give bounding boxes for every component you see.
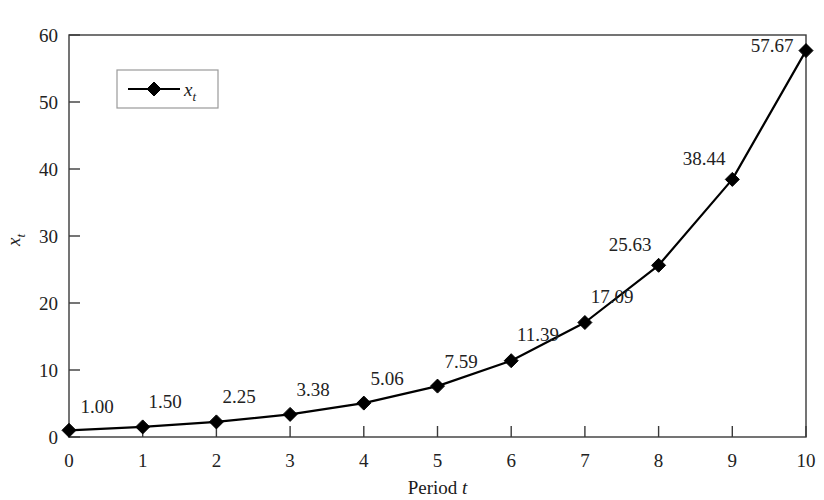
x-axis-ticks bbox=[69, 426, 806, 437]
x-tick-label: 6 bbox=[506, 450, 516, 471]
y-tick-label: 50 bbox=[39, 92, 58, 113]
x-tick-label: 5 bbox=[433, 450, 443, 471]
data-point-label: 11.39 bbox=[517, 324, 559, 345]
data-point-marker bbox=[209, 415, 223, 429]
x-tick-label: 8 bbox=[654, 450, 664, 471]
data-point-label: 57.67 bbox=[751, 35, 794, 56]
x-tick-label: 7 bbox=[580, 450, 590, 471]
data-point-label: 2.25 bbox=[222, 386, 255, 407]
y-axis-title-subscript: t bbox=[13, 234, 28, 238]
y-tick-label: 10 bbox=[39, 360, 58, 381]
legend: xt bbox=[117, 70, 218, 108]
x-axis-title: Period t bbox=[408, 477, 468, 498]
y-axis-title: xt bbox=[3, 234, 28, 247]
x-axis-title-variable: t bbox=[462, 477, 468, 498]
x-tick-label: 2 bbox=[212, 450, 222, 471]
x-tick-label: 3 bbox=[285, 450, 295, 471]
data-point-marker bbox=[62, 423, 76, 437]
y-tick-label: 30 bbox=[39, 226, 58, 247]
data-point-marker bbox=[357, 396, 371, 410]
data-point-marker bbox=[136, 420, 150, 434]
data-point-label: 3.38 bbox=[296, 379, 329, 400]
y-axis-tick-labels: 60 50 40 30 20 10 0 bbox=[39, 25, 58, 448]
data-point-label: 5.06 bbox=[370, 368, 403, 389]
y-axis-ticks bbox=[69, 35, 80, 437]
x-tick-label: 4 bbox=[359, 450, 369, 471]
data-point-label: 38.44 bbox=[683, 148, 726, 169]
x-tick-label: 0 bbox=[64, 450, 74, 471]
x-axis-title-text: Period bbox=[408, 477, 458, 498]
svg-text:xt: xt bbox=[3, 234, 28, 247]
x-tick-label: 9 bbox=[728, 450, 738, 471]
line-chart: 60 50 40 30 20 10 0 0 1 2 3 4 5 6 7 8 9 … bbox=[0, 0, 824, 500]
svg-text:Period t: Period t bbox=[408, 477, 468, 498]
chart-page: 60 50 40 30 20 10 0 0 1 2 3 4 5 6 7 8 9 … bbox=[0, 0, 824, 500]
data-point-label: 1.50 bbox=[148, 391, 181, 412]
y-tick-label: 40 bbox=[39, 159, 58, 180]
y-tick-label: 60 bbox=[39, 25, 58, 46]
data-point-label: 7.59 bbox=[444, 351, 477, 372]
x-tick-label: 1 bbox=[138, 450, 148, 471]
data-point-marker bbox=[431, 379, 445, 393]
data-point-label: 25.63 bbox=[609, 234, 652, 255]
x-axis-tick-labels: 0 1 2 3 4 5 6 7 8 9 10 bbox=[64, 450, 815, 471]
y-tick-label: 0 bbox=[49, 427, 59, 448]
x-tick-label: 10 bbox=[797, 450, 816, 471]
data-point-marker bbox=[504, 354, 518, 368]
data-point-label: 1.00 bbox=[80, 396, 113, 417]
y-tick-label: 20 bbox=[39, 293, 58, 314]
data-point-label: 17.09 bbox=[591, 286, 634, 307]
data-point-marker bbox=[799, 44, 813, 58]
data-point-marker bbox=[283, 407, 297, 421]
